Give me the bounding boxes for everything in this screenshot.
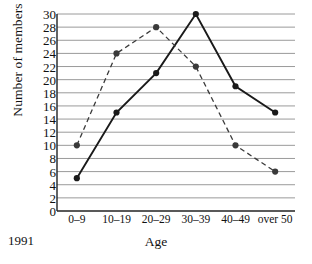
x-tick-label: 20–29: [142, 213, 171, 225]
data-point: [272, 109, 278, 115]
chart-figure: Number of members 0246810121416182022242…: [0, 0, 312, 264]
data-point: [74, 142, 80, 148]
series-line-dashed-series: [77, 27, 275, 171]
x-tick-label: 30–39: [181, 213, 210, 225]
data-point: [193, 63, 199, 69]
data-point: [232, 142, 238, 148]
series-line-solid-series: [77, 14, 275, 178]
x-tick-label: 0–9: [68, 213, 85, 225]
data-point: [113, 109, 119, 115]
x-tick-label: 10–19: [102, 213, 131, 225]
data-point: [153, 70, 159, 76]
data-point: [232, 83, 238, 89]
data-point: [74, 175, 80, 181]
data-point: [113, 50, 119, 56]
x-tick-label: over 50: [258, 213, 293, 225]
data-point: [153, 24, 159, 30]
data-point: [272, 169, 278, 175]
data-point: [193, 11, 199, 17]
year-label: 1991: [8, 233, 34, 249]
x-axis-title: Age: [0, 234, 312, 250]
x-tick-label: 40–49: [221, 213, 250, 225]
